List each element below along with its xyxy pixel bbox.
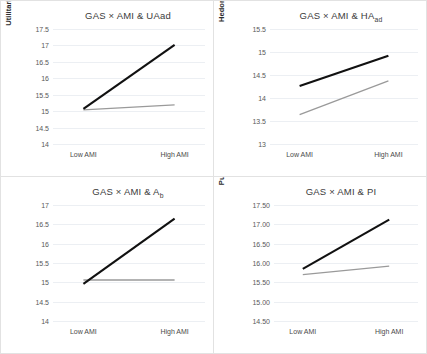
- y-tick-label: 16.5: [35, 58, 49, 65]
- y-tick-label: 16.50: [252, 240, 270, 247]
- series-line: [83, 105, 174, 110]
- panel-title-haad-main: GAS × AMI & HA: [300, 10, 375, 21]
- y-axis-label-haad-main: Hedonic Dimension of A: [217, 0, 226, 22]
- x-tick-label: High AMI: [374, 151, 402, 158]
- series-lines-haad: [270, 29, 418, 144]
- chart-panel-pi: GAS × AMI & PI Purchase Intention 17.501…: [214, 177, 427, 354]
- x-tick-label: Low AMI: [70, 328, 97, 335]
- x-tick-label: Low AMI: [289, 328, 316, 335]
- chart-panel-haad: GAS × AMI & HAad Hedonic Dimension of Aa…: [214, 0, 427, 177]
- panel-title-ab-sub: b: [160, 192, 164, 199]
- y-tick-label: 15.00: [252, 298, 270, 305]
- y-tick-label: 14: [41, 318, 49, 325]
- y-axis-label-ab: Brand Attitude: [2, 177, 16, 217]
- y-axis-label-uaad: Utilitarian Dimension of Aad: [2, 0, 16, 41]
- plot-area-ab: 1716.51615.51514.514 Low AMIHigh AMI: [53, 205, 205, 321]
- series-line: [300, 81, 389, 115]
- y-tick-label: 13.5: [252, 118, 266, 125]
- y-tick-label: 17.00: [252, 221, 270, 228]
- y-axis-label-haad: Hedonic Dimension of Aad: [215, 0, 229, 41]
- x-axis-haad: Low AMIHigh AMI: [270, 144, 418, 164]
- y-tick-label: 15: [258, 49, 266, 56]
- x-tick-label: High AMI: [160, 151, 188, 158]
- panel-title-ab: GAS × AMI & Ab: [1, 186, 213, 199]
- y-tick-label: 15: [41, 279, 49, 286]
- y-tick-label: 14: [41, 141, 49, 148]
- panel-title-haad-sub: ad: [374, 16, 382, 23]
- x-tick-label: Low AMI: [286, 151, 313, 158]
- y-tick-label: 16.5: [35, 221, 49, 228]
- x-tick-label: High AMI: [375, 328, 403, 335]
- y-tick-label: 16.00: [252, 260, 270, 267]
- y-tick-label: 14.50: [252, 318, 270, 325]
- x-axis-pi: Low AMIHigh AMI: [274, 321, 418, 341]
- series-line: [83, 45, 174, 109]
- plot-area-uaad: 17.51716.51615.51514.514 Low AMIHigh AMI: [53, 29, 205, 144]
- plot-area-haad: 15.51514.51413.513 Low AMIHigh AMI: [270, 29, 418, 144]
- plot-area-pi: 17.5017.0016.5016.0015.5015.0014.50 Low …: [274, 205, 418, 321]
- series-line: [303, 266, 389, 275]
- panel-title-uaad: GAS × AMI & UAad: [1, 10, 213, 21]
- y-tick-label: 17: [41, 42, 49, 49]
- y-tick-label: 15.5: [35, 260, 49, 267]
- y-tick-label: 16: [41, 240, 49, 247]
- series-lines-ab: [53, 205, 205, 321]
- multi-panel-interaction-figure: GAS × AMI & UAad Utilitarian Dimension o…: [0, 0, 427, 354]
- y-tick-label: 14.5: [252, 72, 266, 79]
- panel-title-haad: GAS × AMI & HAad: [214, 10, 426, 23]
- chart-panel-uaad: GAS × AMI & UAad Utilitarian Dimension o…: [0, 0, 214, 177]
- panel-title-pi: GAS × AMI & PI: [214, 186, 426, 197]
- y-tick-label: 17.5: [35, 26, 49, 33]
- y-tick-label: 16: [41, 75, 49, 82]
- series-lines-pi: [274, 205, 418, 321]
- y-tick-label: 15.50: [252, 279, 270, 286]
- x-axis-uaad: Low AMIHigh AMI: [53, 144, 205, 164]
- y-tick-label: 15.5: [252, 26, 266, 33]
- series-lines-uaad: [53, 29, 205, 144]
- y-tick-label: 14.5: [35, 298, 49, 305]
- chart-panel-ab: GAS × AMI & Ab Brand Attitude 1716.51615…: [0, 177, 214, 354]
- y-tick-label: 15: [41, 108, 49, 115]
- y-tick-label: 14.5: [35, 124, 49, 131]
- y-tick-label: 15.5: [35, 91, 49, 98]
- y-tick-label: 13: [258, 141, 266, 148]
- x-tick-label: High AMI: [160, 328, 188, 335]
- y-axis-label-pi: Purchase Intention: [215, 177, 229, 217]
- series-line: [300, 56, 389, 86]
- panel-title-ab-main: GAS × AMI & A: [92, 186, 159, 197]
- y-tick-label: 17.50: [252, 202, 270, 209]
- series-line: [303, 220, 389, 269]
- series-line: [83, 219, 174, 284]
- y-tick-label: 14: [258, 95, 266, 102]
- x-axis-ab: Low AMIHigh AMI: [53, 321, 205, 341]
- x-tick-label: Low AMI: [70, 151, 97, 158]
- y-tick-label: 17: [41, 202, 49, 209]
